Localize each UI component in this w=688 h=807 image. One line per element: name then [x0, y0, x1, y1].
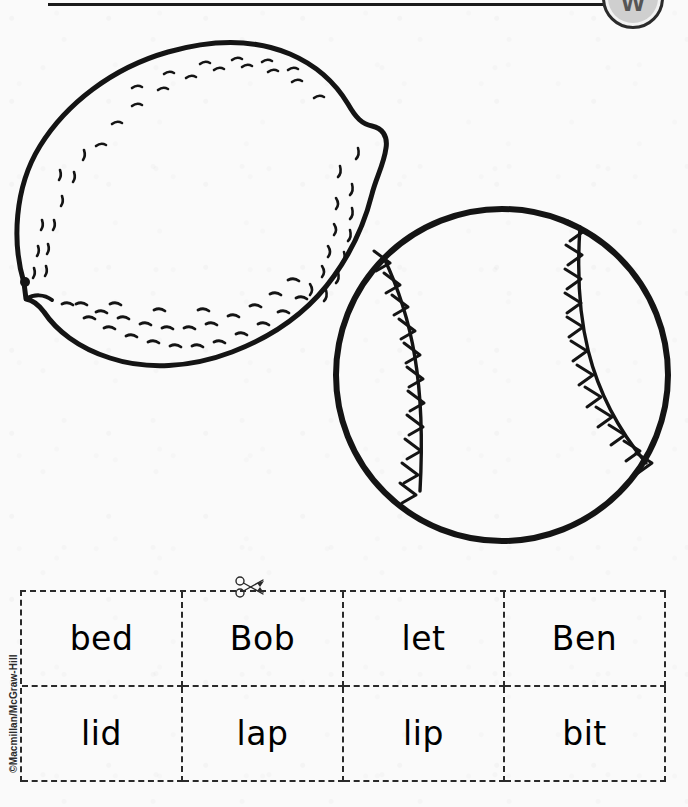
word-label: lap	[237, 717, 289, 750]
word-card[interactable]: lap	[183, 687, 344, 782]
word-card[interactable]: Bob	[183, 592, 344, 687]
circular-badge-icon: W	[602, 0, 664, 29]
word-label: Ben	[552, 622, 617, 655]
header-rule	[48, 3, 630, 6]
word-label: lid	[81, 717, 122, 750]
word-card[interactable]: bed	[22, 592, 183, 687]
word-card-table: bed Bob let Ben lid lap lip bit	[20, 590, 666, 782]
word-label: let	[402, 622, 446, 655]
word-label: bit	[562, 717, 607, 750]
word-card[interactable]: lid	[22, 687, 183, 782]
word-card[interactable]: lip	[344, 687, 505, 782]
worksheet-page: W	[0, 0, 688, 807]
word-label: Bob	[230, 622, 295, 655]
badge-glyph: W	[621, 0, 646, 15]
word-card[interactable]: let	[344, 592, 505, 687]
word-card[interactable]: bit	[505, 687, 666, 782]
baseball-illustration	[328, 195, 680, 555]
word-label: bed	[70, 622, 134, 655]
word-label: lip	[403, 717, 444, 750]
word-card[interactable]: Ben	[505, 592, 666, 687]
copyright-notice: ©Macmillan/McGraw-Hill	[8, 654, 19, 774]
